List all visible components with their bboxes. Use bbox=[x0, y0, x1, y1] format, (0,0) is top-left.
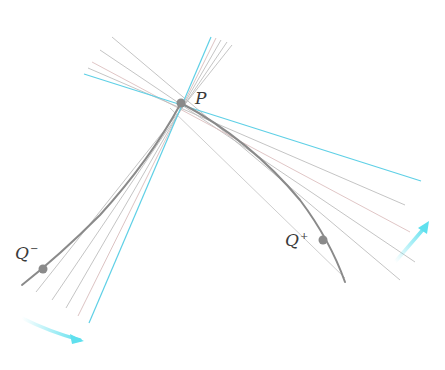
secant-tangent-diagram bbox=[0, 0, 445, 370]
label-p: P bbox=[195, 90, 206, 107]
secant-line bbox=[52, 42, 227, 300]
secant-line bbox=[170, 108, 345, 278]
label-q-plus: Q+ bbox=[285, 231, 308, 249]
tangent-lines bbox=[84, 37, 421, 323]
label-q-plus-sup: + bbox=[300, 230, 308, 241]
label-q-minus-base: Q bbox=[15, 243, 29, 263]
tangent-line-right bbox=[84, 74, 421, 181]
point-q-plus bbox=[319, 236, 328, 245]
point-q-minus bbox=[39, 265, 48, 274]
secant-line bbox=[36, 45, 232, 292]
secant-line bbox=[66, 40, 221, 308]
tangent-line-left bbox=[89, 37, 211, 323]
secant-line bbox=[92, 62, 410, 232]
secant-lines-fan-right bbox=[88, 37, 415, 280]
secant-line bbox=[78, 38, 216, 316]
arrowhead-lower-left bbox=[70, 334, 84, 344]
curve bbox=[22, 103, 345, 285]
label-q-minus: Q− bbox=[15, 244, 38, 262]
label-q-plus-base: Q bbox=[285, 230, 299, 250]
secant-line bbox=[112, 37, 400, 280]
secant-line bbox=[88, 68, 405, 205]
label-q-minus-sup: − bbox=[30, 243, 38, 254]
arrow-lower-right bbox=[395, 226, 426, 262]
label-p-text: P bbox=[195, 88, 206, 108]
point-p bbox=[177, 99, 186, 108]
direction-arrows bbox=[22, 221, 429, 344]
secant-lines-fan-left bbox=[36, 38, 232, 316]
